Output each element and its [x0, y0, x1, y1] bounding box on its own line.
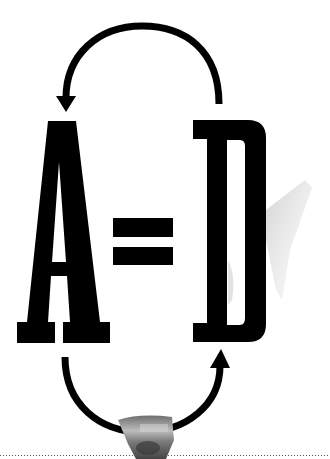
letter-d — [193, 120, 266, 342]
arrowhead-down-icon — [56, 96, 76, 112]
equals-sign — [113, 218, 173, 265]
diagram-canvas: A=D — [0, 0, 330, 459]
letter-a — [17, 121, 110, 343]
top-curved-arrow — [56, 26, 219, 112]
arrowhead-up-icon — [210, 349, 230, 368]
brush-smudge — [266, 180, 312, 300]
photo-fragment — [118, 416, 174, 459]
